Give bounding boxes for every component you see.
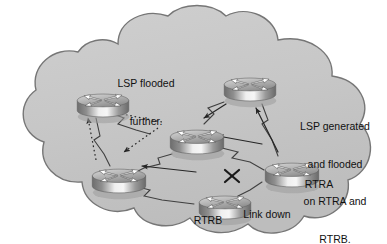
annotation-lsp-flooded-further: LSP flooded further. xyxy=(96,52,196,152)
annotation-line: and flooded xyxy=(283,158,387,171)
router-label-rtrb: RTRB xyxy=(178,214,238,227)
annotation-link-down: Link down xyxy=(228,183,306,244)
router-top-right[interactable] xyxy=(224,78,276,107)
annotation-line: LSP flooded xyxy=(96,77,196,90)
router-bottom-left[interactable] xyxy=(92,169,146,199)
annotation-line: further. xyxy=(96,115,196,128)
annotation-line: LSP generated xyxy=(283,120,387,133)
annotation-line: Link down xyxy=(228,208,306,221)
router-label-rtra: RTRA xyxy=(289,178,349,191)
network-diagram-figure: LSP flooded further. LSP generated and f… xyxy=(0,0,387,244)
